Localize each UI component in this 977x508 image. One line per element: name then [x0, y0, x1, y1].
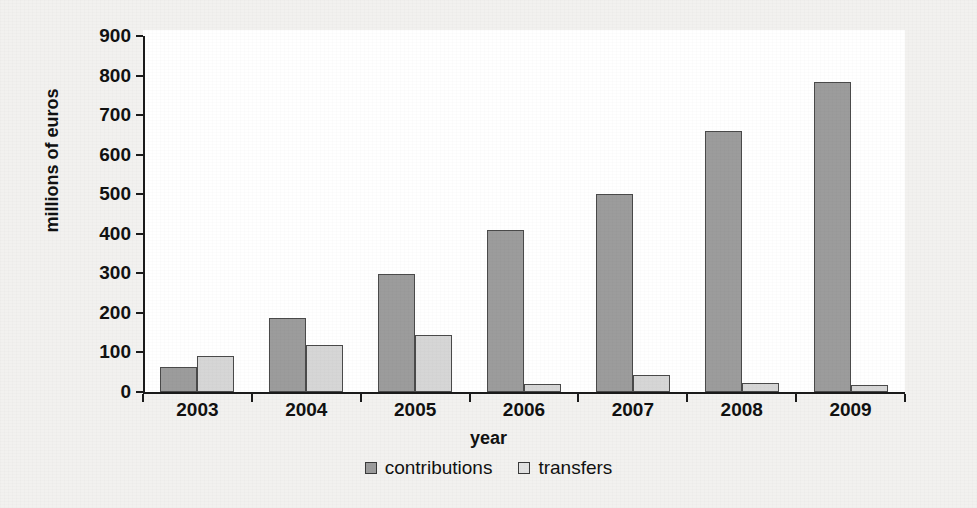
x-axis-line [143, 392, 905, 394]
bar-transfers-2006 [524, 384, 561, 392]
x-tick-label: 2008 [697, 400, 787, 419]
bar-transfers-2007 [633, 375, 670, 392]
x-axis-title: year [0, 428, 977, 449]
bar-contributions-2007 [596, 194, 633, 392]
bar-transfers-2005 [415, 335, 452, 392]
legend-swatch-icon [518, 462, 530, 474]
bar-contributions-2008 [705, 131, 742, 392]
x-tick-label: 2007 [588, 400, 678, 419]
bar-transfers-2004 [306, 345, 343, 392]
x-tick-mark [686, 394, 688, 402]
legend-label: transfers [538, 458, 612, 477]
bar-transfers-2008 [742, 383, 779, 392]
x-tick-label: 2005 [370, 400, 460, 419]
bar-contributions-2004 [269, 318, 306, 392]
x-tick-mark [577, 394, 579, 402]
legend-entry-transfers: transfers [518, 458, 612, 477]
bars-layer [0, 0, 977, 392]
bar-chart-figure: 0100200300400500600700800900 20032004200… [0, 0, 977, 508]
x-tick-mark [360, 394, 362, 402]
x-tick-mark [251, 394, 253, 402]
legend-entry-contributions: contributions [365, 458, 493, 477]
x-tick-mark [469, 394, 471, 402]
chart-legend: contributionstransfers [0, 458, 977, 477]
bar-contributions-2009 [814, 82, 851, 393]
bar-contributions-2005 [378, 274, 415, 392]
bar-contributions-2006 [487, 230, 524, 392]
bar-transfers-2009 [851, 385, 888, 393]
legend-swatch-icon [365, 462, 377, 474]
legend-label: contributions [385, 458, 493, 477]
bar-contributions-2003 [160, 367, 197, 392]
x-tick-label: 2003 [152, 400, 242, 419]
x-tick-mark [142, 394, 144, 402]
y-axis-title: millions of euros [42, 51, 63, 271]
x-tick-mark [795, 394, 797, 402]
x-tick-mark [904, 394, 906, 402]
x-tick-label: 2009 [806, 400, 896, 419]
x-tick-label: 2004 [261, 400, 351, 419]
bar-transfers-2003 [197, 356, 234, 392]
x-tick-label: 2006 [479, 400, 569, 419]
